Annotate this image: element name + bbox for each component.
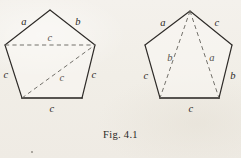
right-side-label-upper-right: c bbox=[215, 18, 220, 29]
right-side-label-right: b bbox=[230, 71, 235, 82]
paper-speck bbox=[31, 151, 33, 153]
figure-caption: Fig. 4.1 bbox=[0, 129, 241, 140]
right-side-label-upper-left: a bbox=[160, 18, 165, 29]
figure-4-1: a b c c c c c a c c b c b a Fig. 4.1 bbox=[0, 0, 241, 158]
right-diagonal-label-apex-to-lower-left: b bbox=[167, 53, 172, 64]
right-side-label-bottom: c bbox=[189, 104, 194, 115]
left-side-label-bottom: c bbox=[50, 104, 55, 115]
left-side-label-left: c bbox=[4, 70, 9, 81]
right-diagonal-label-apex-to-lower-right: a bbox=[209, 53, 214, 64]
left-diagonal-label-lower-left-to-upper-right: c bbox=[60, 73, 65, 84]
left-side-label-upper-left: a bbox=[21, 17, 26, 28]
left-diagonal-label-horizontal: c bbox=[48, 33, 53, 44]
left-side-label-upper-right: b bbox=[75, 17, 80, 28]
left-pentagon-group bbox=[5, 10, 95, 98]
left-side-label-right: c bbox=[92, 70, 97, 81]
right-side-label-left: c bbox=[144, 71, 149, 82]
left-pentagon-fill bbox=[5, 10, 95, 98]
